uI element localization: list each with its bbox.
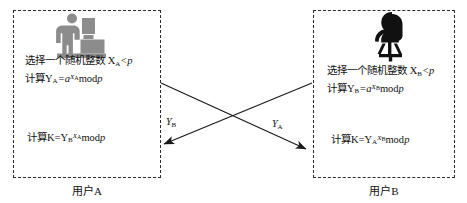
- person-at-desktop-computer-icon: [52, 12, 110, 60]
- party-a-compute-mod: mod: [79, 72, 98, 83]
- party-b-key-label: 计算K=Y: [331, 134, 372, 145]
- party-b-compute-modulus: p: [399, 82, 404, 93]
- party-b-compute-line: 计算YB=aXBmodp: [327, 81, 434, 98]
- party-a-key-text: 计算K=YBXAmodp: [27, 130, 105, 147]
- arrow-a-to-b: [161, 83, 306, 149]
- party-a-key-modulus: p: [100, 132, 105, 143]
- party-b-choose-line: 选择一个随机整数 XB<p: [327, 64, 434, 81]
- party-b-key-mod: mod: [385, 134, 404, 145]
- party-a-compute-eq: =a: [58, 72, 70, 83]
- party-b-compute-mod: mod: [380, 82, 399, 93]
- arrow-b-to-a: [164, 83, 312, 144]
- diffie-hellman-diagram: YB YA 选择一个随机整数 XA<p 计算YA=aXAmodp 计算K=YBX…: [0, 0, 467, 203]
- party-a-compute-modulus: p: [97, 72, 102, 83]
- party-b-key-modulus: p: [404, 134, 409, 145]
- party-a-key-label: 计算K=Y: [27, 132, 68, 143]
- wire-label-y-a-subscript: A: [278, 123, 283, 131]
- party-b-setup-text: 选择一个随机整数 XB<p 计算YB=aXBmodp: [327, 64, 434, 98]
- party-b-choose-label: 选择一个随机整数 X: [327, 65, 417, 76]
- party-b-choose-tail: <p: [422, 65, 434, 76]
- party-a-label: 用户A: [13, 182, 161, 198]
- party-a-choose-tail: <p: [120, 55, 132, 66]
- party-a-compute-line: 计算YA=aXAmodp: [25, 71, 133, 88]
- person-sitting-on-chair-silhouette-icon: [366, 10, 414, 62]
- party-a-key-mod: mod: [81, 132, 100, 143]
- party-b-key-line: 计算K=YAXBmodp: [331, 132, 409, 149]
- party-a-compute-label: 计算Y: [25, 72, 53, 83]
- party-a-choose-line: 选择一个随机整数 XA<p: [25, 54, 133, 71]
- party-b-label: 用户B: [313, 182, 455, 198]
- wire-label-y-b-subscript: B: [172, 121, 177, 129]
- party-b-key-text: 计算K=YAXBmodp: [331, 132, 409, 149]
- party-a-setup-text: 选择一个随机整数 XA<p 计算YA=aXAmodp: [25, 54, 133, 88]
- party-b-compute-eq: =a: [359, 82, 371, 93]
- party-a-key-line: 计算K=YBXAmodp: [27, 130, 105, 147]
- party-a-choose-label: 选择一个随机整数 X: [25, 55, 115, 66]
- wire-label-y-b: YB: [166, 116, 176, 129]
- wire-label-y-a: YA: [272, 118, 283, 131]
- party-b-compute-label: 计算Y: [327, 82, 355, 93]
